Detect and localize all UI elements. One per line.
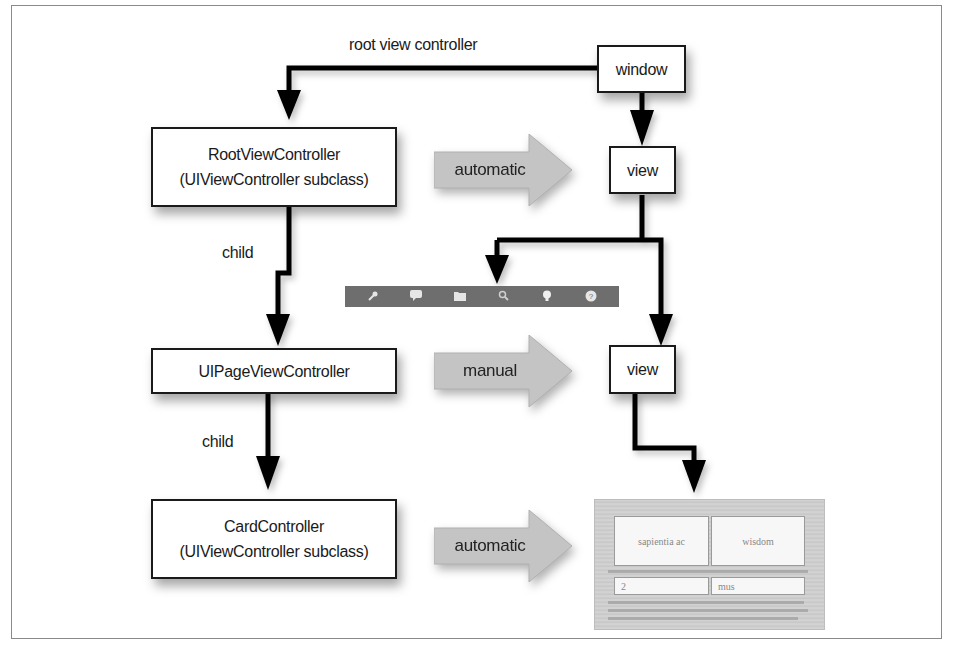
view-mid-label: view	[627, 357, 658, 382]
card-cell-mus: mus	[711, 577, 805, 595]
svg-text:?: ?	[589, 292, 594, 301]
card-text-line	[608, 601, 804, 604]
root-view-controller-node: RootViewController (UIViewController sub…	[151, 127, 397, 207]
toolbar-preview: ?	[345, 286, 619, 307]
view-node-top: view	[609, 146, 676, 194]
root-view-controller-edge-label: root view controller	[349, 36, 477, 54]
card-vc-name: CardController	[224, 514, 324, 539]
card-cell-number: 2	[614, 577, 709, 595]
window-label: window	[616, 57, 668, 82]
automatic-arrow-1-label: automatic	[434, 134, 546, 206]
manual-arrow-label: manual	[434, 335, 546, 407]
folder-icon	[453, 291, 467, 303]
lightbulb-icon	[540, 290, 554, 304]
view-top-label: view	[627, 158, 658, 183]
card-text-line	[608, 570, 808, 573]
automatic-arrow-1: automatic	[434, 134, 572, 206]
child-edge-label-1: child	[222, 244, 253, 262]
card-vc-class: (UIViewController subclass)	[179, 539, 368, 564]
speech-bubble-icon	[409, 290, 423, 303]
card-view-preview: sapientia ac wisdom 2 mus	[594, 499, 825, 630]
automatic-arrow-2-label: automatic	[434, 510, 546, 582]
card-text-line	[608, 617, 798, 620]
page-view-controller-node: UIPageViewController	[151, 348, 397, 394]
help-icon: ?	[584, 290, 598, 304]
window-node: window	[597, 45, 686, 93]
view-node-middle: view	[609, 345, 676, 394]
automatic-arrow-2: automatic	[434, 510, 572, 582]
search-icon	[497, 290, 511, 303]
root-vc-connector	[289, 68, 598, 90]
root-vc-class: (UIViewController subclass)	[179, 167, 368, 192]
page-vc-label: UIPageViewController	[198, 359, 349, 384]
wrench-icon	[366, 290, 380, 304]
card-controller-node: CardController (UIViewController subclas…	[151, 499, 397, 579]
root-vc-name: RootViewController	[208, 142, 340, 167]
card-cell-sapientia: sapientia ac	[614, 516, 709, 566]
card-cell-wisdom: wisdom	[711, 516, 805, 566]
card-text-line	[608, 609, 808, 612]
manual-arrow: manual	[434, 335, 572, 407]
child-edge-label-2: child	[202, 433, 233, 451]
